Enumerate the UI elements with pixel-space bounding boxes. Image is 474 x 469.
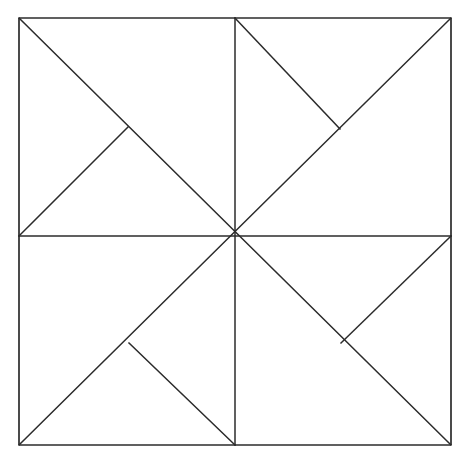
pinwheel-square-figure — [0, 0, 474, 469]
